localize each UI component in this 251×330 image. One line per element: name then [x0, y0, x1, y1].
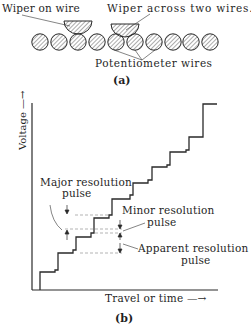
- apparent-resolution-arrows: [118, 243, 122, 253]
- major-resolution-arrows: [65, 205, 69, 240]
- caption-b: (b): [115, 312, 133, 325]
- wiper-on-wire-icon: [64, 21, 92, 34]
- potentiometer-wires-label: Potentiometer wires: [95, 58, 212, 69]
- apparent-resolution-label-2: pulse: [181, 255, 210, 266]
- x-axis-label: Travel or time —→: [105, 293, 207, 304]
- minor-resolution-arrows: [118, 220, 122, 240]
- minor-resolution-label-2: pulse: [147, 217, 176, 228]
- wiper-across-label: Wiper across two wires.: [107, 3, 251, 14]
- panel-a: [22, 14, 218, 60]
- minor-leader: [123, 223, 145, 231]
- apparent-resolution-label-1: Apparent resolution: [138, 243, 248, 254]
- caption-a: (a): [113, 74, 131, 87]
- potentiometer-resolution-figure: Wiper on wire Wiper across two wires. Po…: [0, 0, 251, 330]
- wiper-on-wire-leader: [22, 15, 70, 26]
- wiper-on-wire-label: Wiper on wire: [2, 3, 80, 14]
- minor-resolution-label-1: Minor resolution: [122, 205, 214, 216]
- apparent-leader: [123, 244, 138, 249]
- major-resolution-label-2: pulse: [62, 188, 91, 199]
- y-axis-label: Voltage —→: [17, 91, 28, 150]
- major-leader-curve: [50, 205, 62, 230]
- figure-drawing: [0, 0, 251, 330]
